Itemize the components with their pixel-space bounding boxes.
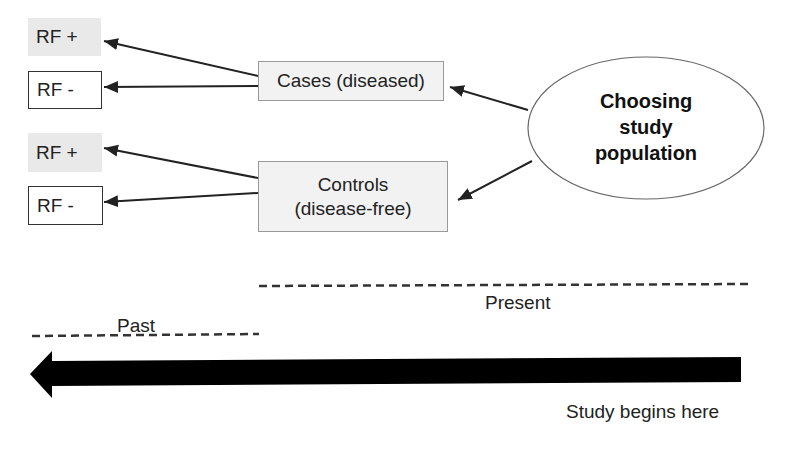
- arrow-cases-to-rfpos: [104, 41, 258, 76]
- past-label: Past: [117, 315, 155, 337]
- study-begins-label: Study begins here: [566, 401, 719, 423]
- controls-label-line2: (disease-free): [294, 197, 411, 221]
- arrow-population-to-cases: [450, 87, 528, 110]
- rf-positive-box-controls: RF +: [28, 133, 102, 172]
- cases-box: Cases (diseased): [258, 61, 444, 101]
- rf-label: RF +: [36, 141, 78, 165]
- rf-positive-box-cases: RF +: [28, 18, 101, 56]
- arrow-controls-to-rfneg: [104, 193, 258, 202]
- population-line3: population: [546, 140, 746, 166]
- controls-label-line1: Controls: [318, 173, 389, 197]
- rf-negative-box-controls: RF -: [28, 186, 103, 225]
- arrow-cases-to-rfneg: [104, 86, 258, 87]
- arrow-population-to-controls: [458, 161, 532, 200]
- population-line1: Choosing: [546, 88, 746, 114]
- rf-negative-box-cases: RF -: [28, 71, 102, 109]
- rf-label: RF +: [36, 25, 78, 49]
- arrow-controls-to-rfpos: [104, 148, 258, 178]
- rf-label: RF -: [37, 78, 74, 102]
- present-dashed-line: [259, 284, 752, 286]
- cases-label: Cases (diseased): [277, 69, 425, 93]
- rf-label: RF -: [37, 194, 74, 218]
- population-label: Choosing study population: [546, 88, 746, 166]
- controls-box: Controls (disease-free): [258, 161, 448, 232]
- present-label: Present: [485, 292, 550, 314]
- timeline-arrow: [30, 351, 741, 398]
- population-line2: study: [546, 114, 746, 140]
